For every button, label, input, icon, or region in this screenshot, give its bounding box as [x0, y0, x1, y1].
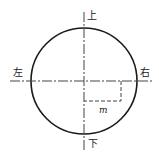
offset-dashed-rect — [84, 81, 121, 101]
label-offset-m: m — [99, 105, 108, 115]
label-top: 上 — [87, 10, 97, 21]
label-right: 右 — [140, 66, 150, 78]
label-left: 左 — [13, 66, 23, 78]
label-bottom: 下 — [88, 138, 98, 149]
circle-position-diagram: 上 左 右 下 m — [0, 0, 159, 156]
